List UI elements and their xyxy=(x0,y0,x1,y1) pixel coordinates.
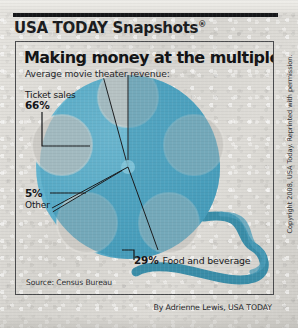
byline: By Adrienne Lewis, USA TODAY xyxy=(153,303,272,312)
callout-food-beverage-value: 29% xyxy=(134,255,159,267)
copyright-notice: Copyright 2008, USA Today. Reprinted wit… xyxy=(283,140,297,320)
top-paper-margin xyxy=(0,0,298,13)
chart-subtitle: Average movie theater revenue: xyxy=(25,68,170,79)
callout-food-beverage-label: Food and beverage xyxy=(163,256,251,267)
registered-trademark-icon: ® xyxy=(198,20,206,29)
chart-panel: Making money at the multiplex Average mo… xyxy=(15,41,274,295)
source-note: Source: Census Bureau xyxy=(26,278,112,287)
callout-ticket-sales-value: 66% xyxy=(25,100,76,112)
masthead: USA TODAY Snapshots® xyxy=(14,18,278,39)
callout-food-beverage: 29% Food and beverage xyxy=(134,255,250,267)
chart-panel-inner: Making money at the multiplex Average mo… xyxy=(16,42,273,294)
callout-other-label: Other xyxy=(25,200,50,210)
chart-title: Making money at the multiplex xyxy=(24,48,274,67)
callout-other-value: 5% xyxy=(25,188,50,200)
masthead-title: USA TODAY Snapshots® xyxy=(14,21,206,36)
newspaper-clipping: USA TODAY Snapshots® xyxy=(0,0,298,328)
callout-other: 5% Other xyxy=(25,188,50,210)
masthead-rule xyxy=(13,13,278,17)
callout-ticket-sales: Ticket sales 66% xyxy=(25,90,76,112)
copyright-text: Copyright 2008, USA Today. Reprinted wit… xyxy=(286,54,294,233)
masthead-brand: USA TODAY Snapshots xyxy=(14,19,198,37)
